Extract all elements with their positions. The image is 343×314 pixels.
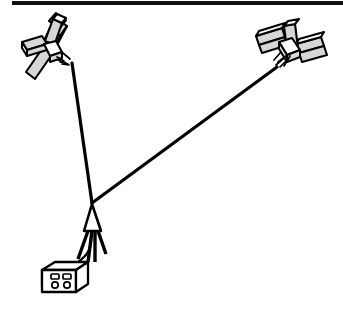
top-border-rule	[12, 1, 343, 5]
receiver-knob-2[interactable]	[64, 282, 70, 288]
receiver-knob-1[interactable]	[52, 282, 58, 288]
receiver-button-rect-1[interactable]	[51, 274, 59, 279]
signal-beams	[72, 63, 277, 203]
solar-panel-edge	[284, 19, 299, 26]
satellite-left	[22, 13, 70, 79]
antenna-leg	[98, 231, 106, 254]
satellite-link-diagram	[0, 0, 343, 314]
antenna-horn	[84, 204, 101, 231]
figure-root: Satellite communication link diagram Sat…	[0, 0, 343, 314]
receiver-box	[42, 262, 88, 292]
beam-left-satellite-to-antenna	[72, 63, 92, 203]
satellite-right	[256, 19, 327, 67]
receiver-button-rect-2[interactable]	[63, 274, 71, 279]
ground-antenna	[78, 204, 106, 262]
beam-right-satellite-to-antenna	[92, 67, 277, 203]
